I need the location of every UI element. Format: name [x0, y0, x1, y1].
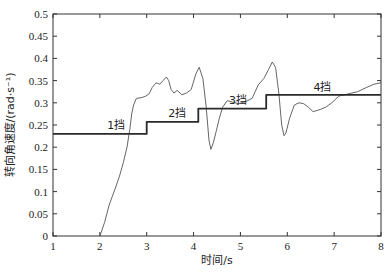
series-layer — [53, 62, 381, 236]
x-tick-label: 4 — [191, 240, 197, 252]
gear-label-2: 2挡 — [168, 106, 186, 120]
y-tick-label: 0 — [43, 230, 49, 242]
gear-label-3: 3挡 — [229, 93, 247, 107]
plot-frame — [53, 14, 381, 236]
x-tick-label: 1 — [50, 240, 56, 252]
y-tick-label: 0.1 — [34, 186, 48, 198]
y-axis-title: 转向角速度/(rad·s⁻¹) — [3, 73, 17, 178]
x-tick-label: 8 — [378, 240, 384, 252]
x-tick-label: 2 — [97, 240, 103, 252]
chart: 1234567800.050.10.150.20.250.30.350.40.4… — [0, 0, 391, 272]
y-tick-label: 0.5 — [34, 8, 48, 20]
x-tick-label: 3 — [144, 240, 150, 252]
y-tick-label: 0.45 — [29, 30, 49, 42]
angular-velocity-line — [100, 62, 381, 236]
y-tick-label: 0.05 — [29, 208, 49, 220]
gear-label-1: 1挡 — [107, 118, 125, 132]
ticks-layer — [53, 14, 381, 236]
x-axis-title: 时间/s — [201, 254, 233, 267]
y-tick-label: 0.4 — [34, 52, 48, 64]
y-tick-label: 0.25 — [29, 119, 49, 131]
gear-label-4: 4挡 — [313, 80, 331, 94]
x-tick-label: 6 — [285, 240, 291, 252]
x-tick-label: 7 — [331, 240, 337, 252]
y-tick-label: 0.35 — [29, 75, 49, 87]
y-tick-label: 0.2 — [34, 141, 48, 153]
y-tick-label: 0.15 — [29, 163, 49, 175]
labels-layer: 1234567800.050.10.150.20.250.30.350.40.4… — [29, 8, 385, 252]
y-tick-label: 0.3 — [34, 97, 48, 109]
x-tick-label: 5 — [238, 240, 244, 252]
